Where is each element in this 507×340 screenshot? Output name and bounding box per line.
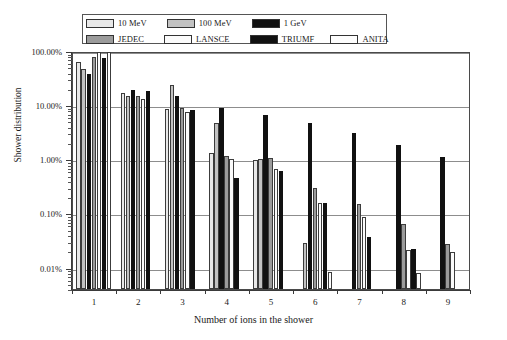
bar-1-gev-group-2 [131, 90, 135, 289]
y-tick-minor [68, 115, 72, 116]
bar-lansce-group-2 [141, 99, 145, 289]
legend-swatch-jedec [86, 35, 114, 44]
bar-1-gev-group-1 [87, 74, 91, 289]
y-axis-title: Shower distribution [13, 55, 23, 195]
bar-jedec-group-5 [268, 158, 272, 289]
legend-swatch-anita [330, 35, 358, 44]
legend-item-lansce: LANSCE [164, 35, 230, 44]
bar-jedec-group-2 [136, 96, 140, 289]
bar-jedec-group-7 [357, 204, 361, 289]
legend-item-anita: ANITA [330, 35, 388, 44]
legend-label-10-mev: 10 MeV [118, 19, 147, 28]
legend-item-jedec: JEDEC [86, 35, 144, 44]
bar-triumf-group-2 [146, 91, 150, 289]
chart-legend: 10 MeV 100 MeV 1 GeV JEDEC LANSCE T [82, 14, 387, 44]
y-tick-minor [68, 252, 72, 253]
x-tick [426, 290, 427, 294]
bar-100-mev-group-6 [303, 243, 307, 289]
y-tick-minor [68, 163, 72, 164]
x-tick-label: 9 [433, 297, 463, 307]
x-tick-label: 5 [256, 297, 286, 307]
y-tick-minor [68, 226, 72, 227]
y-tick-minor [68, 177, 72, 178]
y-tick-minor [68, 220, 72, 221]
legend-item-100-mev: 100 MeV [167, 19, 232, 28]
bar-10-mev-group-2 [121, 93, 125, 289]
legend-label-anita: ANITA [362, 35, 388, 44]
y-tick-minor [68, 111, 72, 112]
y-tick-minor [68, 90, 72, 91]
bar-100-mev-group-4 [214, 123, 218, 289]
bar-100-mev-group-1 [81, 69, 85, 289]
y-tick-label: 0.01% [0, 265, 62, 274]
legend-row-1: 10 MeV 100 MeV 1 GeV [86, 17, 383, 30]
bar-triumf-group-3 [190, 110, 194, 289]
y-tick-major [66, 214, 72, 215]
x-tick-label: 3 [168, 297, 198, 307]
y-tick-minor [68, 60, 72, 61]
y-tick-minor [68, 64, 72, 65]
x-tick [470, 290, 471, 294]
legend-swatch-1-gev [252, 19, 280, 28]
bar-triumf-group-7 [367, 237, 371, 289]
bar-1-gev-group-5 [263, 115, 267, 289]
y-tick-minor [68, 169, 72, 170]
x-tick [249, 290, 250, 294]
x-tick-label: 6 [300, 297, 330, 307]
bar-lansce-group-7 [362, 217, 366, 289]
bar-100-mev-group-2 [126, 96, 130, 289]
y-tick-major [66, 160, 72, 161]
legend-swatch-triumf [250, 35, 278, 44]
bar-1-gev-group-8 [396, 145, 400, 289]
bar-jedec-group-9 [445, 244, 449, 289]
legend-item-triumf: TRIUMF [250, 35, 315, 44]
y-tick-label: 1.00% [0, 156, 62, 165]
legend-row-2: JEDEC LANSCE TRIUMF ANITA [86, 33, 383, 46]
legend-label-lansce: LANSCE [196, 35, 230, 44]
bar-triumf-group-1 [102, 58, 106, 289]
y-tick-minor [68, 57, 72, 58]
x-tick-label: 2 [123, 297, 153, 307]
y-tick-major [66, 106, 72, 107]
x-tick-label: 1 [79, 297, 109, 307]
bar-10-mev-group-4 [209, 153, 213, 289]
y-tick-minor [68, 182, 72, 183]
y-tick-minor [68, 236, 72, 237]
bar-1-gev-group-9 [440, 157, 444, 289]
y-tick-minor [68, 274, 72, 275]
legend-label-triumf: TRIUMF [282, 35, 315, 44]
y-tick-minor [68, 128, 72, 129]
legend-swatch-10-mev [86, 19, 114, 28]
bar-lansce-group-9 [450, 252, 454, 289]
bar-anita-group-8 [416, 273, 420, 289]
y-tick-minor [68, 198, 72, 199]
y-tick-minor [68, 285, 72, 286]
bar-anita-group-1 [107, 52, 111, 289]
bar-triumf-group-5 [279, 171, 283, 289]
bar-lansce-group-3 [185, 112, 189, 289]
y-tick-minor [68, 243, 72, 244]
legend-item-1-gev: 1 GeV [252, 19, 307, 28]
bar-jedec-group-3 [180, 108, 184, 289]
bar-lansce-group-5 [274, 169, 278, 289]
bar-1-gev-group-3 [175, 96, 179, 289]
legend-label-jedec: JEDEC [118, 35, 144, 44]
y-tick-minor [68, 223, 72, 224]
bar-lansce-group-8 [406, 250, 410, 289]
y-tick-minor [68, 144, 72, 145]
y-tick-minor [68, 166, 72, 167]
y-tick-minor [68, 118, 72, 119]
y-tick-minor [68, 109, 72, 110]
legend-swatch-100-mev [167, 19, 195, 28]
chart-figure: 10 MeV 100 MeV 1 GeV JEDEC LANSCE T [0, 0, 507, 340]
x-tick [205, 290, 206, 294]
legend-item-10-mev: 10 MeV [86, 19, 147, 28]
bar-triumf-group-8 [411, 249, 415, 289]
bar-jedec-group-4 [224, 156, 228, 289]
y-tick-minor [68, 281, 72, 282]
bar-lansce-group-6 [318, 203, 322, 289]
bar-1-gev-group-6 [308, 123, 312, 289]
bar-10-mev-group-1 [76, 62, 80, 289]
y-tick-major [66, 269, 72, 270]
bar-jedec-group-6 [313, 188, 317, 290]
